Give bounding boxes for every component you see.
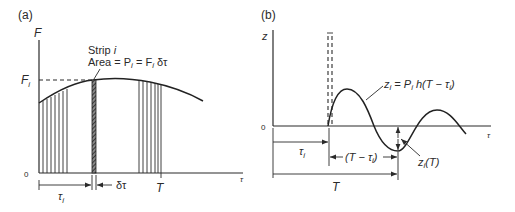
- T-label-b: T: [332, 180, 341, 194]
- panel-b-label: (b): [261, 8, 276, 22]
- origin-label-a: 0: [24, 170, 29, 179]
- tau-i-label-a: τi: [58, 190, 64, 205]
- diagram-svg: (a) F 0 τ Fi: [0, 0, 515, 212]
- panel-a: (a) F 0 τ Fi: [18, 8, 244, 205]
- strip-i: [92, 80, 96, 173]
- equation-leader: [366, 86, 383, 100]
- z-axis-label: z: [261, 30, 268, 42]
- origin-label-b: 0: [261, 123, 266, 132]
- strip-title: Strip i: [88, 44, 117, 56]
- tau-i-label-b: τi: [299, 145, 305, 160]
- response-equation: zi = Pi h(T − τi): [383, 78, 455, 92]
- delta-tau-label: δτ: [116, 179, 127, 191]
- zi-T-label: zi(T): [417, 156, 440, 170]
- force-axis-label: F: [34, 26, 42, 40]
- strip-leader-line: [94, 69, 100, 79]
- force-curve: [39, 78, 203, 103]
- strip-area-label: Area = Pi = Fi δτ: [88, 56, 168, 70]
- tau-axis-label-b: τ: [487, 131, 491, 140]
- panel-b: (b) z 0 τ zi = Pi h(T − τi) zi(T) τi (T …: [261, 8, 491, 194]
- right-strips: [139, 80, 161, 173]
- tau-axis-label-a: τ: [240, 175, 244, 184]
- T-label-a: T: [156, 181, 165, 195]
- response-curve: [328, 89, 466, 151]
- figure-stage: (a) F 0 τ Fi: [0, 0, 515, 212]
- left-strips: [43, 89, 67, 173]
- panel-a-label: (a): [18, 8, 33, 22]
- fi-label: Fi: [21, 73, 30, 89]
- T-minus-tau-label: (T − τi): [345, 151, 378, 165]
